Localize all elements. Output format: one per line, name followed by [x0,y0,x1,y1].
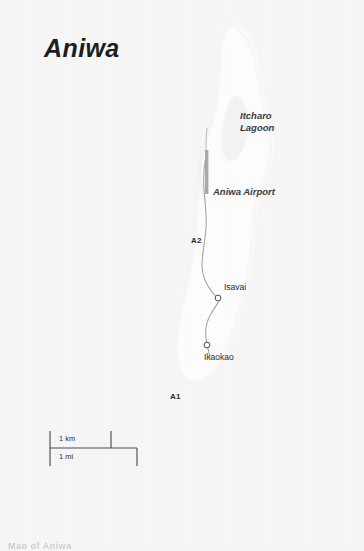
map-graphics [0,0,364,551]
aniwa-airport-runway [205,150,208,194]
place-marker-ikaokao[interactable] [204,342,210,348]
place-marker-isavai[interactable] [215,295,221,301]
map-canvas: Aniwa Itcharo Lagoon Aniwa Airport Isava… [0,0,364,551]
sea-background [0,0,364,551]
